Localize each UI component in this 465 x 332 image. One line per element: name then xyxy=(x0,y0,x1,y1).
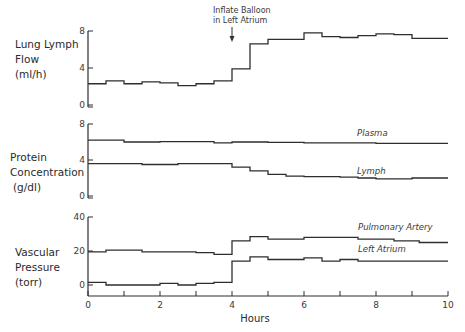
annotation-line2: in Left Atrium xyxy=(213,16,267,25)
series-lung-lymph-flow xyxy=(88,33,448,86)
y-tick-label: 4 xyxy=(79,63,85,73)
annotation-line1: Inflate Balloon xyxy=(213,6,271,15)
panel-2: 048 xyxy=(79,119,448,201)
series-left-atrium xyxy=(88,257,448,285)
y-tick-label: 0 xyxy=(79,191,85,201)
x-tick-label: 0 xyxy=(85,300,91,310)
series-label-lymph: Lymph xyxy=(357,166,386,176)
panel-1: 048 xyxy=(79,26,448,110)
chart-panels: 048048020400246810 xyxy=(74,26,454,310)
y-tick-label: 20 xyxy=(74,246,86,256)
series-label-left-atrium: Left Atrium xyxy=(358,244,406,254)
x-tick-label: 8 xyxy=(373,300,379,310)
series-plasma xyxy=(88,140,448,143)
x-tick-label: 2 xyxy=(157,300,163,310)
x-tick-label: 10 xyxy=(442,300,454,310)
x-tick-label: 6 xyxy=(301,300,307,310)
y-tick-label: 40 xyxy=(74,212,86,222)
y-tick-label: 0 xyxy=(79,100,85,110)
y-tick-label: 0 xyxy=(79,280,85,290)
series-label-pulmonary-artery: Pulmonary Artery xyxy=(358,222,434,232)
y-tick-label: 8 xyxy=(79,26,85,36)
y-tick-label: 8 xyxy=(79,119,85,129)
y-tick-label: 4 xyxy=(79,155,85,165)
series-label-plasma: Plasma xyxy=(357,128,388,138)
x-axis-label: Hours xyxy=(240,313,269,324)
series-lymph xyxy=(88,164,448,179)
figure: 048048020400246810 Inflate Balloon in Le… xyxy=(0,0,465,332)
annotation-arrow-icon xyxy=(230,27,235,42)
x-tick-label: 4 xyxy=(229,300,235,310)
